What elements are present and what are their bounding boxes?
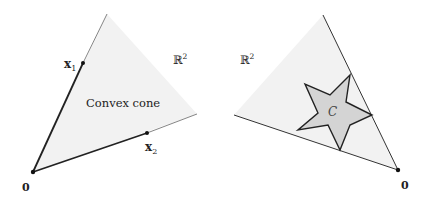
right-panel: C ℝ2 0: [234, 15, 409, 192]
convex-cone-label: Convex cone: [86, 96, 160, 110]
x2-label: x2: [145, 140, 157, 156]
x1-label: x1: [64, 57, 76, 73]
set-c-label: C: [328, 105, 337, 119]
convex-cone-figure: x1 x2 Convex cone ℝ2 0 C ℝ2 0: [0, 0, 428, 198]
right-space-label: ℝ2: [240, 52, 255, 67]
origin-point: [31, 170, 35, 174]
left-space-label: ℝ2: [173, 52, 188, 67]
x2-point: [145, 131, 149, 135]
left-panel: x1 x2 Convex cone ℝ2 0: [22, 14, 197, 194]
convex-cone-region: [33, 14, 197, 172]
right-origin-point: [396, 168, 400, 172]
left-origin-label: 0: [22, 181, 30, 194]
x1-point: [81, 61, 85, 65]
right-origin-label: 0: [401, 179, 409, 192]
